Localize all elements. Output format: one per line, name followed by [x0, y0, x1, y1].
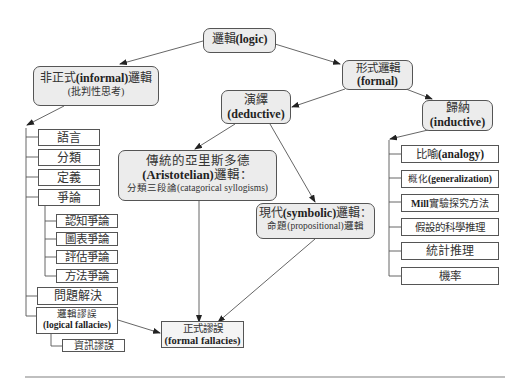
item-label: 評估爭論: [65, 251, 109, 263]
item-label: 問題解決: [54, 289, 102, 303]
node-deductive: 演繹 (deductive): [221, 90, 291, 124]
aristotelian-zh-post: 邏輯：: [214, 168, 253, 182]
node-formal-fallacies: 正式謬誤 (formal fallacies): [161, 321, 244, 348]
item-en: (analogy): [438, 148, 484, 160]
informal-item-definition: 定義: [38, 169, 100, 186]
aristotelian-en: (Aristotelian): [142, 168, 214, 182]
informal-item-problem-solving: 問題解決: [37, 287, 118, 305]
informal-item-info-fallacy: 資訊謬誤: [62, 339, 125, 352]
symbolic-zh-post: 邏輯：: [336, 206, 372, 220]
informal-item-language: 語言: [38, 129, 100, 146]
item-zh: 比喻: [416, 148, 438, 160]
aristotelian-zh: 傳統的亞里斯多德: [119, 154, 276, 168]
informal-item-classification: 分類: [38, 149, 100, 166]
item-label: 爭論: [57, 191, 81, 205]
inductive-item-statistics: 統計推理: [401, 242, 499, 260]
node-informal-logic: 非正式(informal)邏輯 (批判性思考): [33, 66, 159, 106]
informal-sub: (批判性思考): [34, 86, 158, 98]
node-logic: 邏輯(logic): [203, 28, 276, 53]
informal-item-logical-fallacies: 邏輯謬誤 (logical fallacies): [36, 307, 118, 334]
formal-en: (formal): [343, 75, 412, 88]
item-zh: 假設的科學推理: [415, 222, 485, 233]
formal-zh: 形式邏輯: [343, 62, 412, 75]
argument-item-evaluation: 評估爭論: [56, 250, 118, 264]
item-zh: 概化: [408, 174, 428, 184]
item-label: 圖表爭論: [65, 233, 109, 245]
deductive-en: (deductive): [222, 108, 290, 122]
item-label: 語言: [57, 131, 81, 145]
node-logic-zh: 邏輯: [212, 32, 236, 46]
inductive-item-mill: Mill實驗探究方法: [401, 194, 499, 212]
logical-fallacies-en: (logical fallacies): [37, 320, 117, 331]
formal-fallacies-zh: 正式謬誤: [162, 323, 243, 335]
item-zh: 實驗探究方法: [429, 198, 489, 209]
inductive-item-probability: 機率: [401, 267, 499, 285]
argument-item-cognitive: 認知爭論: [56, 214, 118, 228]
node-inductive: 歸納 (inductive): [422, 100, 493, 131]
informal-en: (informal): [76, 71, 129, 85]
inductive-zh: 歸納: [423, 102, 492, 116]
node-aristotelian: 傳統的亞里斯多德 (Aristotelian)邏輯： 分類三段論(catagor…: [118, 150, 277, 201]
item-zh: 統計推理: [426, 244, 474, 258]
aristotelian-sub: 分類三段論(catagorical syllogisms): [119, 183, 276, 194]
item-label: 定義: [57, 171, 81, 185]
item-en: Mill: [411, 198, 429, 209]
symbolic-zh-pre: 現代: [259, 206, 283, 220]
argument-item-method: 方法爭論: [56, 269, 118, 283]
symbolic-sub: 命題(propositional)邏輯: [257, 221, 374, 232]
item-zh: 機率: [439, 270, 461, 282]
node-logic-en: (logic): [236, 32, 268, 46]
formal-fallacies-en: (formal fallacies): [162, 335, 243, 347]
informal-zh-pre: 非正式: [40, 71, 76, 85]
argument-item-diagram: 圖表爭論: [56, 232, 118, 246]
inductive-item-hypothesis: 假設的科學推理: [401, 218, 499, 236]
informal-item-argument: 爭論: [38, 189, 100, 206]
inductive-item-generalization: 概化(generalization): [401, 170, 499, 188]
logical-fallacies-zh: 邏輯謬誤: [37, 309, 117, 320]
inductive-item-analogy: 比喻(analogy): [401, 145, 499, 163]
item-label: 認知爭論: [65, 215, 109, 227]
item-label: 方法爭論: [65, 270, 109, 282]
node-symbolic: 現代(symbolic)邏輯： 命題(propositional)邏輯: [256, 203, 375, 239]
node-formal-logic: 形式邏輯 (formal): [342, 60, 413, 90]
item-en: (generalization): [428, 174, 492, 184]
inductive-en: (inductive): [423, 116, 492, 130]
item-label: 分類: [57, 151, 81, 165]
informal-zh-post: 邏輯: [128, 71, 152, 85]
symbolic-en: (symbolic): [283, 206, 336, 220]
deductive-zh: 演繹: [222, 94, 290, 108]
item-label: 資訊謬誤: [74, 340, 114, 351]
